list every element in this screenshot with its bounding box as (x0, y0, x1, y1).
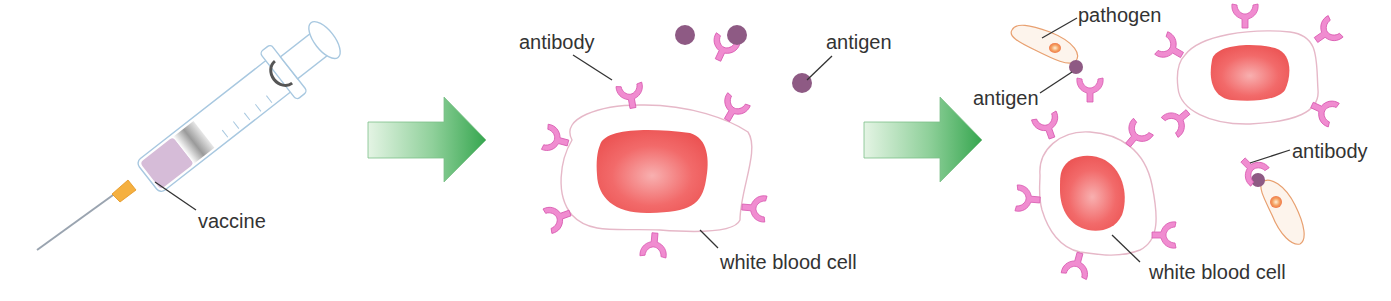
vaccine-leader-line (155, 182, 196, 210)
needle (37, 190, 120, 250)
wbc-leader-line (700, 230, 718, 248)
process-arrow-2 (864, 97, 982, 182)
antibody (640, 232, 668, 258)
antibody-leader-line (1250, 150, 1290, 163)
antibody (1308, 15, 1343, 50)
pathogen (1011, 25, 1077, 63)
antibody (1232, 4, 1258, 28)
syringe: vaccine (37, 10, 351, 250)
antibody (1061, 250, 1093, 280)
label-white-blood-cell: white blood cell (1148, 261, 1286, 283)
antigen-leader-line (807, 56, 832, 80)
label-antibody: antibody (519, 31, 595, 53)
antigen (675, 25, 695, 45)
label-pathogen: pathogen (1078, 4, 1161, 26)
antibody (741, 194, 767, 222)
nucleus (597, 130, 708, 213)
needle-hub (112, 180, 136, 202)
antigen-leader-line (1040, 72, 1072, 93)
antibody (1015, 185, 1041, 213)
process-arrow-1 (368, 97, 486, 182)
antibody (1031, 111, 1064, 143)
antibody (1077, 78, 1103, 102)
pathogen (1261, 180, 1304, 244)
label-antigen: antigen (826, 31, 892, 53)
stage-3-immune-response: pathogen antigen white blood cell antibo… (973, 4, 1368, 283)
label-antigen: antigen (973, 87, 1039, 109)
immune-response-diagram: vaccine antibody antigen white blood cel… (0, 0, 1391, 301)
antigen-bound (727, 25, 747, 45)
label-vaccine: vaccine (198, 210, 266, 232)
antibody-leader-line (573, 55, 612, 80)
antigen-bound (1251, 173, 1265, 187)
pathogen-leader-line (1042, 18, 1077, 38)
label-antibody: antibody (1292, 140, 1368, 162)
nucleus (1211, 45, 1290, 101)
label-white-blood-cell: white blood cell (719, 251, 857, 273)
stage-2-white-blood-cell: antibody antigen white blood cell (519, 25, 892, 273)
antigen (792, 73, 812, 93)
